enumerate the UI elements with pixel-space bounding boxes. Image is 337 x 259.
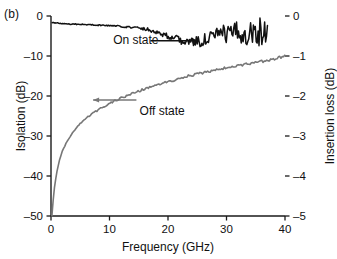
y-tick-label-right: –2	[293, 90, 306, 102]
x-tick-label: 0	[48, 223, 54, 235]
y-tick-label-left: 0	[37, 10, 43, 22]
series-line-on-state	[52, 18, 267, 47]
x-tick-label: 20	[162, 223, 175, 235]
y-tick-label-right: –4	[293, 170, 306, 182]
x-tick-label: 10	[103, 223, 116, 235]
y-tick-label-right: –5	[293, 210, 306, 222]
curve-label-off-state: Off state	[140, 104, 185, 118]
x-tick-label: 30	[220, 223, 233, 235]
annotation-arrow-off-state	[93, 97, 136, 102]
y-tick-label-left: –40	[24, 170, 43, 182]
y-axis-title-right: Insertion loss (dB)	[323, 68, 337, 165]
y-tick-label-right: –1	[293, 50, 306, 62]
annotation-group	[93, 38, 198, 102]
y-tick-label-left: –20	[24, 90, 43, 102]
y-tick-label-left: –10	[24, 50, 43, 62]
axes-group	[47, 16, 290, 221]
x-axis-title: Frequency (GHz)	[122, 240, 214, 254]
y-tick-label-right: 0	[293, 10, 299, 22]
series-line-off-state	[52, 55, 285, 216]
x-tick-label: 40	[279, 223, 292, 235]
y-tick-label-left: –50	[24, 210, 43, 222]
curve-label-on-state: On state	[113, 33, 158, 47]
y-tick-label-left: –30	[24, 130, 43, 142]
y-tick-label-right: –3	[293, 130, 306, 142]
